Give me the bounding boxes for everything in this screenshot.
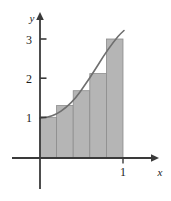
y-tick-label-3: 3 — [26, 33, 32, 47]
riemann-sum-chart: 3 2 1 1 y x — [0, 0, 171, 201]
riemann-bar-3 — [73, 91, 90, 158]
x-tick-label-1: 1 — [120, 165, 126, 179]
figure-container: 3 2 1 1 y x — [0, 0, 171, 201]
riemann-bar-5 — [106, 39, 123, 158]
y-tick-label-1: 1 — [26, 111, 32, 125]
y-tick-label-2: 2 — [26, 72, 32, 86]
x-axis-label: x — [157, 166, 163, 178]
riemann-bar-1 — [40, 117, 57, 158]
y-axis-label: y — [29, 12, 35, 24]
riemann-bar-4 — [90, 74, 107, 158]
